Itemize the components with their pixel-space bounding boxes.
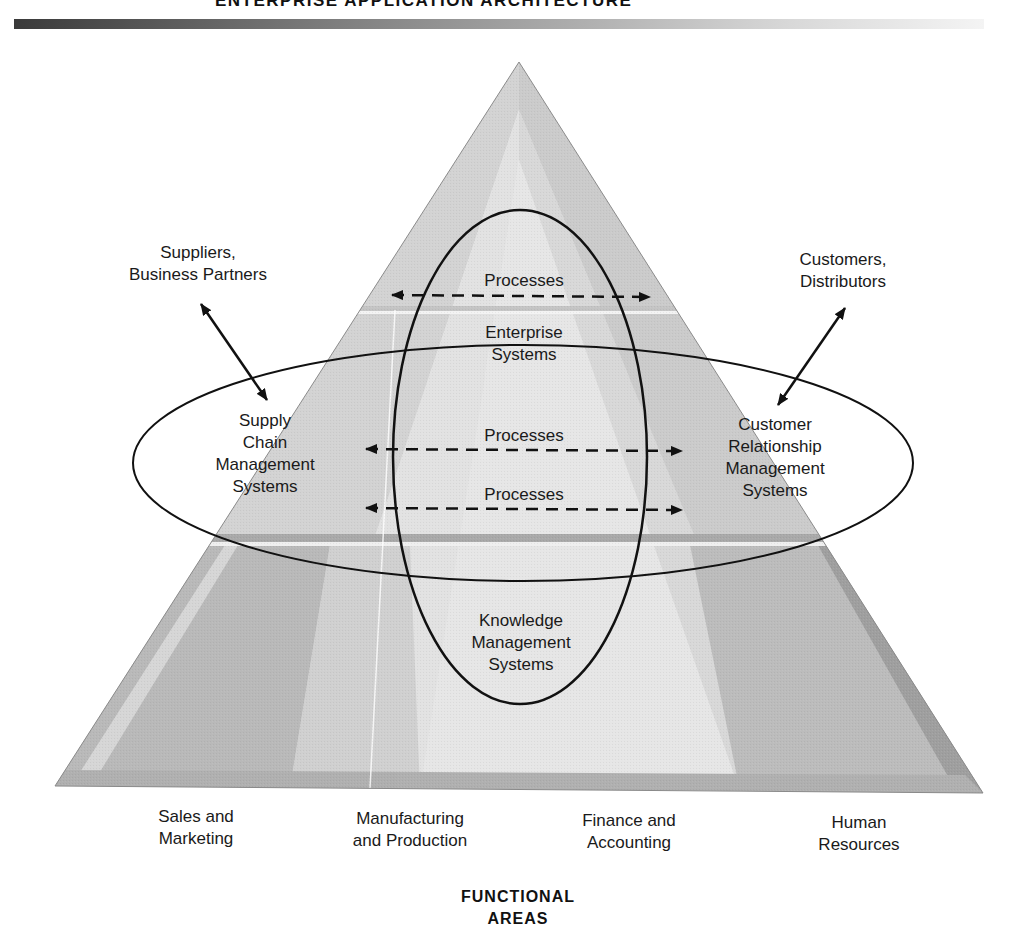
- process-label-bottom: Processes: [484, 484, 563, 506]
- suppliers-link-arrow: [201, 304, 267, 400]
- functional-area-finance-accounting: Finance and Accounting: [582, 810, 676, 854]
- customers-link-arrow: [778, 308, 845, 405]
- suppliers-label: Suppliers, Business Partners: [129, 242, 267, 286]
- functional-area-manufacturing-production: Manufacturing and Production: [353, 808, 467, 852]
- functional-area-sales-marketing: Sales and Marketing: [158, 806, 234, 850]
- crm-systems-label: Customer Relationship Management Systems: [725, 414, 824, 502]
- functional-area-human-resources: Human Resources: [818, 812, 899, 856]
- process-label-middle: Processes: [484, 425, 563, 447]
- architecture-diagram: [0, 0, 1028, 932]
- enterprise-systems-label: Enterprise Systems: [485, 322, 562, 366]
- supply-chain-systems-label: Supply Chain Management Systems: [215, 410, 314, 498]
- knowledge-systems-label: Knowledge Management Systems: [471, 610, 570, 676]
- process-label-top: Processes: [484, 270, 563, 292]
- customers-label: Customers, Distributors: [800, 249, 887, 293]
- functional-areas-title: FUNCTIONAL AREAS: [461, 886, 575, 930]
